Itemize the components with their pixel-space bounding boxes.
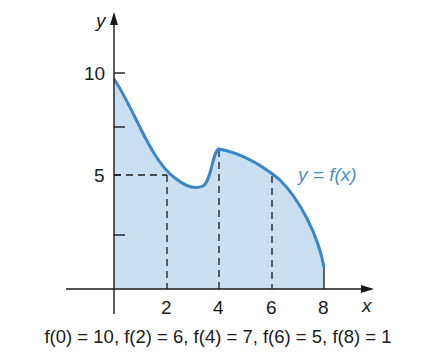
x-tick-2: 2 <box>161 298 172 317</box>
x-tick-8: 8 <box>318 298 329 317</box>
x-tick-4: 4 <box>213 298 224 317</box>
y-tick-5: 5 <box>94 166 105 185</box>
caption: f(0) = 10, f(2) = 6, f(4) = 7, f(6) = 5,… <box>0 326 436 348</box>
x-tick-6: 6 <box>266 298 277 317</box>
x-axis-arrow-icon <box>361 285 374 293</box>
curve-label: y = f(x) <box>298 165 357 184</box>
x-axis-label: x <box>362 296 372 315</box>
y-axis-arrow-icon <box>110 12 118 25</box>
area-under-curve <box>114 79 324 289</box>
y-tick-10: 10 <box>84 64 105 83</box>
y-axis-label: y <box>96 11 106 30</box>
